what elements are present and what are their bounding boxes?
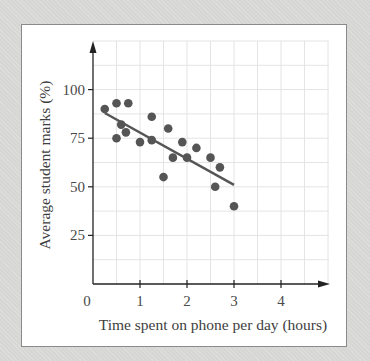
data-point [117,120,126,129]
grid-lines [93,41,329,284]
data-point [211,183,220,192]
data-point [124,99,133,108]
data-point [112,134,121,143]
data-point [147,113,156,122]
axes [90,41,331,288]
data-point [164,124,173,133]
x-axis-label: Time spent on phone per day (hours) [99,316,327,334]
data-point [136,138,145,147]
x-tick-label: 0 [83,293,91,309]
data-point [216,163,225,172]
y-tick-label: 75 [70,130,85,146]
data-point [178,138,187,147]
y-axis-arrow-icon [90,41,97,53]
data-point [192,144,201,153]
data-point [183,153,192,162]
data-point [230,202,239,211]
x-tick-label: 2 [183,293,191,309]
data-point [159,173,168,182]
data-point [206,153,215,162]
scatter-chart: 01234255075100 Time spent on phone per d… [0,0,370,361]
data-point [122,128,131,137]
y-tick-label: 50 [70,179,85,195]
x-tick-label: 4 [277,293,285,309]
x-tick-label: 3 [230,293,238,309]
tick-marks: 01234255075100 [63,82,286,309]
x-tick-label: 1 [136,293,144,309]
data-points [100,99,238,211]
y-tick-label: 100 [63,82,86,98]
data-point [169,153,178,162]
data-point [100,105,109,114]
y-tick-label: 25 [70,227,85,243]
data-point [112,99,121,108]
y-axis-label: Average student marks (%) [36,81,54,250]
data-point [147,136,156,145]
